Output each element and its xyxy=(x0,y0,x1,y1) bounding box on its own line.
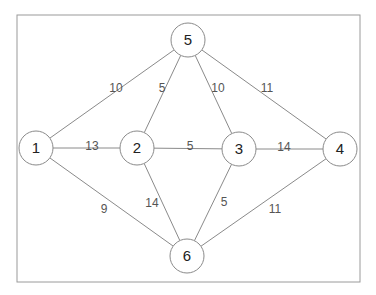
edge-weight-label: 14 xyxy=(277,140,291,154)
edge-weight-label: 13 xyxy=(85,139,99,153)
node-5: 5 xyxy=(171,23,205,57)
edge-weight-label: 9 xyxy=(101,202,108,216)
node-label: 1 xyxy=(32,139,40,156)
node-label: 2 xyxy=(133,139,141,156)
node-6: 6 xyxy=(170,239,204,273)
node-label: 3 xyxy=(235,140,243,157)
node-4: 4 xyxy=(323,132,357,166)
edge-weight-label: 11 xyxy=(269,202,282,216)
edge-weight-label: 11 xyxy=(261,81,274,95)
edge-weight-label: 10 xyxy=(109,81,123,95)
edge-weight-label: 5 xyxy=(187,139,194,153)
edge-weight-label: 14 xyxy=(145,196,159,210)
node-3: 3 xyxy=(222,132,256,166)
edge-weight-label: 5 xyxy=(159,81,166,95)
edge-weight-label: 5 xyxy=(221,195,228,209)
graph-diagram: 105101113514914511 123456 xyxy=(0,0,376,295)
edge-weight-label: 10 xyxy=(211,81,225,95)
node-2: 2 xyxy=(120,131,154,165)
node-label: 5 xyxy=(184,31,192,48)
node-label: 4 xyxy=(336,140,344,157)
node-1: 1 xyxy=(19,131,53,165)
node-label: 6 xyxy=(183,247,191,264)
